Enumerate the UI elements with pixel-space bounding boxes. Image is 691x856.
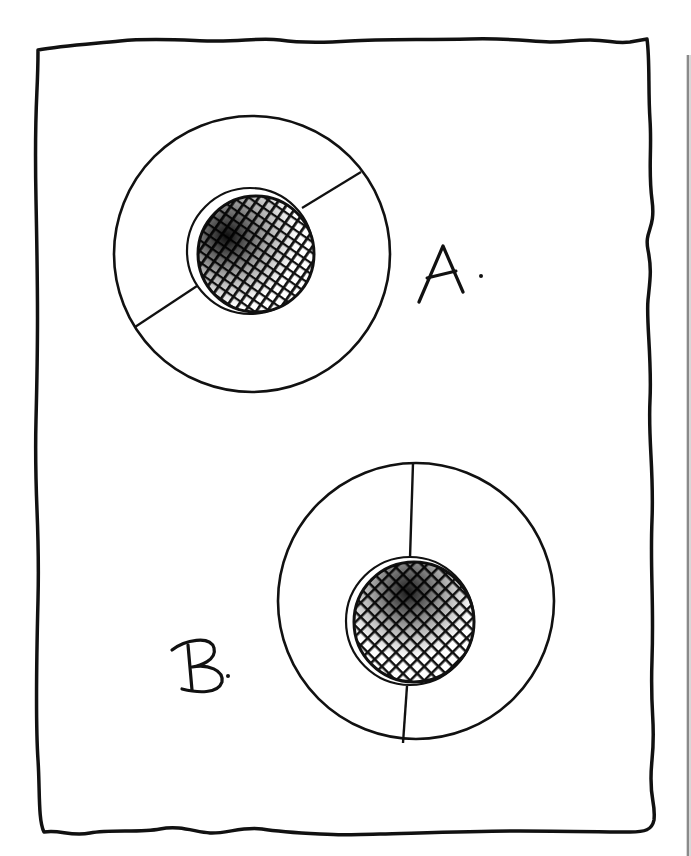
dividing-line-a-lower (135, 286, 197, 327)
hatched-disc-a-shade (198, 196, 314, 312)
diagram-b (278, 463, 554, 743)
dividing-line-a-upper (302, 172, 361, 208)
dividing-line-b-lower (403, 686, 407, 743)
page-edge-strip (686, 55, 691, 856)
label-a: A. (419, 246, 483, 302)
label-a-text: A. (440, 289, 442, 290)
figure-canvas: A. B. (0, 0, 691, 856)
label-b: B. (172, 640, 230, 692)
dividing-line-b-upper (410, 463, 413, 558)
frame-border (35, 39, 654, 835)
hatched-disc-b-shade (354, 562, 474, 682)
diagram-a (114, 116, 390, 392)
